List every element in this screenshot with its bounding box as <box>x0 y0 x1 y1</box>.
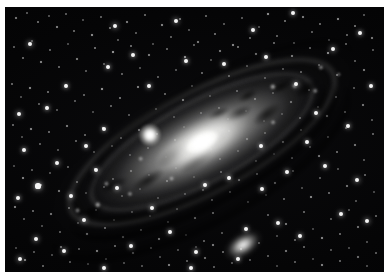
bright-star <box>129 244 133 248</box>
bright-star <box>323 164 327 168</box>
bright-star <box>115 186 119 190</box>
bright-star <box>222 62 226 66</box>
bright-star <box>174 19 179 24</box>
bright-star <box>227 176 231 180</box>
photographic-plate <box>0 0 390 280</box>
bright-star <box>55 161 59 165</box>
bright-star <box>358 31 362 35</box>
image-frame <box>5 7 384 272</box>
bright-star <box>314 111 318 115</box>
bright-star <box>236 257 240 261</box>
bright-star <box>203 183 207 187</box>
bright-star <box>189 266 193 270</box>
bright-star <box>305 140 309 144</box>
bright-star <box>259 144 263 148</box>
bright-star <box>102 127 106 131</box>
bright-star <box>35 183 40 188</box>
bright-star <box>194 250 198 254</box>
bright-star <box>84 144 88 148</box>
bright-star <box>251 28 255 32</box>
bright-star <box>106 65 110 69</box>
bright-star <box>62 249 66 253</box>
bright-star <box>294 82 298 86</box>
bright-star <box>18 257 22 261</box>
bright-star <box>339 212 343 216</box>
bright-star <box>285 170 289 174</box>
bright-star <box>113 24 117 28</box>
bright-star <box>45 106 49 110</box>
bright-star <box>131 53 135 57</box>
bright-star-layer <box>5 7 384 272</box>
bright-star <box>64 84 68 88</box>
bright-star <box>291 11 295 15</box>
bright-star <box>298 234 302 238</box>
bright-star <box>276 221 280 225</box>
bright-star <box>102 266 106 270</box>
bright-star <box>244 227 248 231</box>
bright-star <box>184 59 188 63</box>
bright-star <box>369 84 373 88</box>
bright-star <box>17 112 21 116</box>
bright-star <box>150 206 154 210</box>
bright-star <box>34 237 39 242</box>
bright-star <box>331 47 335 51</box>
bright-star <box>168 230 172 234</box>
bright-star <box>82 218 87 223</box>
bright-star <box>22 148 26 152</box>
bright-star <box>264 55 268 59</box>
bright-star <box>147 84 151 88</box>
bright-star <box>365 219 369 223</box>
bright-star <box>346 124 350 128</box>
bright-star <box>28 42 33 47</box>
bright-star <box>94 168 99 173</box>
bright-star <box>16 196 20 200</box>
bright-star <box>260 187 264 191</box>
bright-star <box>355 178 360 183</box>
bright-star <box>69 194 73 198</box>
